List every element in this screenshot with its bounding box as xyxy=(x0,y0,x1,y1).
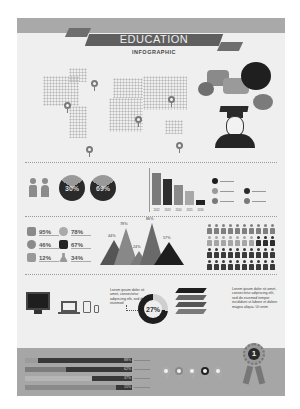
progress-label: 15% xyxy=(124,385,131,390)
stat-item: 46% xyxy=(27,240,51,249)
legend-text xyxy=(252,201,266,202)
person-icon xyxy=(221,248,226,258)
person-icon xyxy=(249,260,254,270)
graduate-body xyxy=(215,134,255,148)
progress-bar: 37% xyxy=(25,376,132,381)
person-icon xyxy=(221,260,226,270)
bar-2013 xyxy=(163,179,172,205)
book xyxy=(175,309,207,314)
bar-2012 xyxy=(152,173,161,205)
person-icon xyxy=(270,224,275,234)
mountain-label: 24% xyxy=(133,245,141,249)
person-icon xyxy=(242,248,247,258)
bar-axis-label: 2016 xyxy=(195,208,206,212)
progress-fill xyxy=(66,367,132,372)
page-subtitle: INFOGRAPHIC xyxy=(87,49,221,55)
tag-pin-icon xyxy=(188,367,196,375)
mountain-peak xyxy=(154,242,184,265)
tag-pin-icon xyxy=(201,367,209,375)
map-australia xyxy=(165,120,183,134)
location-pin-icon xyxy=(135,116,142,123)
yearly-bar-chart: 2012 2013 2014 2015 2016 xyxy=(149,168,209,212)
person-icon xyxy=(221,236,226,246)
speech-bubble-icon xyxy=(198,82,214,96)
tag-pin-icon xyxy=(162,367,170,375)
laptop-icon xyxy=(61,301,77,312)
mountain-label: 78% xyxy=(120,222,128,226)
graduate-head xyxy=(226,116,244,136)
legend-text xyxy=(220,191,234,192)
mountain-label: 86% xyxy=(146,217,154,221)
person-icon xyxy=(235,260,240,270)
music-note-icon xyxy=(27,253,36,262)
legend-dot xyxy=(212,178,218,184)
person-icon xyxy=(256,260,261,270)
location-pin-icon xyxy=(86,146,93,153)
stat-item: 95% xyxy=(27,227,51,236)
page-title: EDUCATION xyxy=(87,33,221,45)
person-icon xyxy=(207,248,212,258)
progress-caption xyxy=(134,378,150,379)
person-icon xyxy=(263,260,268,270)
person-icon xyxy=(242,224,247,234)
pie-chart-female: 69% xyxy=(90,175,116,201)
flask-icon xyxy=(59,253,68,262)
progress-label: 37% xyxy=(124,376,131,381)
legend-text xyxy=(252,191,266,192)
legend-text xyxy=(220,181,234,182)
stat-item: 12% xyxy=(27,253,51,262)
monitor-icon xyxy=(26,292,50,310)
person-icon xyxy=(270,236,275,246)
infographic-poster: EDUCATION INFOGRAPHIC 30% 69% xyxy=(17,18,285,396)
male-icon xyxy=(29,178,37,197)
progress-caption xyxy=(134,387,150,388)
donut-label: 27% xyxy=(144,300,162,318)
person-icon xyxy=(235,224,240,234)
person-icon xyxy=(214,260,219,270)
book xyxy=(175,295,207,300)
person-icon xyxy=(270,248,275,258)
person-icon xyxy=(214,236,219,246)
person-icon xyxy=(256,224,261,234)
progress-caption xyxy=(134,369,150,370)
award-number: 1 xyxy=(248,348,260,360)
progress-bar: 15% xyxy=(25,385,132,390)
bar-axis-label: 2013 xyxy=(162,208,173,212)
person-icon xyxy=(221,224,226,234)
monitor-stand xyxy=(34,310,42,314)
person-icon xyxy=(228,248,233,258)
mountain-label: 44% xyxy=(108,234,116,238)
location-pin-icon xyxy=(91,80,98,87)
progress-fill xyxy=(38,358,132,363)
person-icon xyxy=(207,260,212,270)
book-icon xyxy=(27,227,36,236)
person-icon xyxy=(242,260,247,270)
map-south-america xyxy=(69,106,87,138)
location-pin-icon xyxy=(176,142,183,149)
pie-chart-male: 30% xyxy=(59,175,85,201)
person-icon xyxy=(242,236,247,246)
person-icon xyxy=(207,236,212,246)
legend-dot xyxy=(212,198,218,204)
tag-pin-icon xyxy=(214,367,222,375)
tablet-icon xyxy=(83,301,91,313)
tag-pin-icon xyxy=(175,367,183,375)
person-icon xyxy=(249,224,254,234)
world-map xyxy=(31,62,191,160)
progress-label: 88% xyxy=(124,358,131,363)
header-band xyxy=(17,18,285,33)
person-icon xyxy=(270,260,275,270)
bar-2015 xyxy=(185,191,194,205)
person-icon xyxy=(263,224,268,234)
speech-bubble-icon xyxy=(253,94,273,110)
progress-caption xyxy=(134,360,150,361)
person-icon xyxy=(214,224,219,234)
person-icon xyxy=(207,224,212,234)
laptop-base xyxy=(58,312,80,314)
stat-item: 34% xyxy=(59,253,83,262)
progress-bar: 88% xyxy=(25,358,132,363)
person-icon xyxy=(249,248,254,258)
globe-icon xyxy=(27,240,36,249)
stat-item: 78% xyxy=(59,227,83,236)
person-icon xyxy=(263,248,268,258)
